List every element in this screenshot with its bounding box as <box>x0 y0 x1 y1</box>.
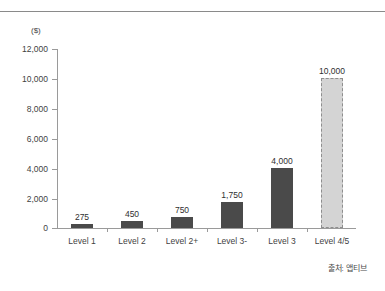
source-note: 출처: 앱티브 <box>328 262 367 273</box>
bar-level-2[interactable] <box>121 221 143 228</box>
y-tick-label-6000: 6,000 <box>4 134 48 144</box>
y-tick-8000 <box>52 109 57 110</box>
y-tick-label-2000: 2,000 <box>4 194 48 204</box>
bar-level-3-minus[interactable] <box>221 202 243 228</box>
x-tick-3 <box>207 228 208 232</box>
bar-level-4-5[interactable] <box>321 78 343 228</box>
top-divider <box>0 11 385 12</box>
x-tick-4 <box>257 228 258 232</box>
chart-figure: ($) 12,000 10,000 8,000 6,000 4,000 2,00… <box>0 0 385 291</box>
y-tick-label-12000: 12,000 <box>4 44 48 54</box>
category-label-level-2: Level 2 <box>107 236 157 246</box>
bar-level-2-plus[interactable] <box>171 217 193 228</box>
bar-value-level-1: 275 <box>67 212 97 222</box>
bar-value-level-4-5: 10,000 <box>313 66 351 76</box>
y-tick-label-0: 0 <box>4 223 48 233</box>
y-axis-unit-label: ($) <box>31 26 41 35</box>
x-tick-2 <box>157 228 158 232</box>
y-tick-12000 <box>52 49 57 50</box>
category-label-level-1: Level 1 <box>57 236 107 246</box>
y-axis-line <box>57 49 58 229</box>
y-tick-4000 <box>52 169 57 170</box>
bar-value-level-3: 4,000 <box>265 156 299 166</box>
bar-value-level-3-minus: 1,750 <box>215 190 249 200</box>
category-label-level-3-minus: Level 3- <box>207 236 257 246</box>
bar-value-level-2-plus: 750 <box>167 205 197 215</box>
category-label-level-3: Level 3 <box>257 236 307 246</box>
y-tick-2000 <box>52 199 57 200</box>
y-tick-label-4000: 4,000 <box>4 164 48 174</box>
x-tick-5 <box>307 228 308 232</box>
y-tick-10000 <box>52 79 57 80</box>
x-tick-1 <box>107 228 108 232</box>
category-label-level-4-5: Level 4/5 <box>307 236 357 246</box>
bar-value-level-2: 450 <box>117 209 147 219</box>
bar-level-1[interactable] <box>71 224 93 228</box>
category-label-level-2-plus: Level 2+ <box>157 236 207 246</box>
bar-level-3[interactable] <box>271 168 293 228</box>
y-tick-label-10000: 10,000 <box>4 74 48 84</box>
y-tick-label-8000: 8,000 <box>4 104 48 114</box>
y-tick-0 <box>52 228 57 229</box>
y-tick-6000 <box>52 139 57 140</box>
